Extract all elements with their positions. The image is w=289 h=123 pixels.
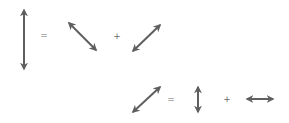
equation-2 <box>133 87 273 112</box>
equals-sign: = <box>40 31 48 40</box>
equation-1 <box>24 10 160 69</box>
diagonal-down-right-double-arrow-icon <box>69 23 96 50</box>
diagonal-up-right-double-arrow-icon <box>133 87 160 112</box>
plus-sign: + <box>223 95 231 104</box>
equals-sign: = <box>167 95 175 104</box>
vector-decomposition-diagram <box>0 0 289 123</box>
diagonal-up-right-double-arrow-icon <box>133 25 160 51</box>
plus-sign: + <box>113 32 121 41</box>
